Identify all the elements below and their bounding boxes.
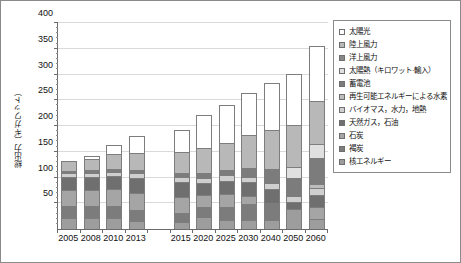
y-tick-minor — [56, 68, 58, 69]
legend-item[interactable]: バイオマス，水力，地熱 — [339, 103, 446, 116]
bar-segment — [286, 167, 302, 178]
bar-2020[interactable] — [196, 115, 212, 229]
bar-segment — [309, 219, 325, 229]
bar-segment — [286, 74, 302, 126]
legend-item[interactable]: 洋上風力 — [339, 51, 446, 64]
y-tick-minor — [56, 79, 58, 80]
bar-segment — [309, 46, 325, 102]
y-tick-minor — [56, 146, 58, 147]
y-tick-label: 100 — [38, 163, 53, 173]
bar-segment — [196, 207, 212, 217]
bar-segment — [309, 144, 325, 158]
y-tick-minor — [56, 207, 58, 208]
legend-label: 石炭 — [349, 131, 363, 140]
y-tick-minor — [56, 120, 58, 121]
legend-item[interactable]: 蓄電池 — [339, 77, 446, 90]
x-tick-label: 2010 — [103, 233, 123, 243]
y-tick-minor — [56, 223, 58, 224]
bar-2025[interactable] — [219, 105, 235, 229]
bar-segment — [241, 182, 257, 195]
bar-segment — [61, 190, 77, 206]
legend-swatch-icon — [339, 94, 345, 100]
y-tick-mark — [54, 74, 58, 75]
legend-item[interactable]: 再生可能エネルギーによる水素 — [339, 90, 446, 103]
y-tick-minor — [56, 43, 58, 44]
x-tick-mark — [327, 229, 328, 233]
y-tick-minor — [56, 104, 58, 105]
y-tick-minor — [56, 156, 58, 157]
bar-segment — [174, 130, 190, 152]
y-tick-label: 350 — [38, 34, 53, 44]
x-tick-mark — [147, 229, 148, 233]
bar-2030[interactable] — [241, 93, 257, 229]
y-tick-mark — [54, 202, 58, 203]
legend-item[interactable]: 太陽熱（キロワット·輸入） — [339, 64, 446, 77]
bar-segment — [286, 202, 302, 209]
y-tick-minor — [56, 115, 58, 116]
bar-segment — [241, 196, 257, 204]
legend-label: 天然ガス，石油 — [349, 118, 398, 127]
y-tick-minor — [56, 32, 58, 33]
bar-segment — [196, 183, 212, 195]
legend-item[interactable]: 核エネルギー — [339, 155, 446, 168]
legend-item[interactable]: 陸上風力 — [339, 38, 446, 51]
legend-item[interactable]: 褐炭 — [339, 142, 446, 155]
y-tick-minor — [56, 94, 58, 95]
bar-segment — [174, 152, 190, 173]
bar-segment — [264, 83, 280, 129]
gridline — [58, 48, 328, 49]
y-tick-minor — [56, 110, 58, 111]
bar-2040[interactable] — [264, 76, 280, 229]
x-tick-label: 2005 — [58, 233, 78, 243]
x-tick-label: 2008 — [81, 233, 101, 243]
legend-swatch-icon — [339, 120, 345, 126]
y-tick-label: 200 — [38, 111, 53, 121]
legend-label: 太陽光 — [349, 27, 370, 36]
legend-item[interactable]: 太陽光 — [339, 25, 446, 38]
legend-label: 蓄電池 — [349, 79, 370, 88]
bar-segment — [241, 168, 257, 176]
legend-item[interactable]: 天然ガス，石油 — [339, 116, 446, 129]
y-tick-mark — [54, 151, 58, 152]
legend-swatch-icon — [339, 133, 345, 139]
bar-segment — [264, 189, 280, 203]
bar-2013[interactable] — [129, 136, 145, 229]
y-tick-label: 400 — [38, 8, 53, 18]
bar-2015[interactable] — [174, 130, 190, 229]
bar-segment — [174, 222, 190, 229]
y-tick-minor — [56, 187, 58, 188]
bar-segment — [241, 204, 257, 220]
bar-segment — [219, 143, 235, 170]
bar-2050[interactable] — [286, 59, 302, 229]
legend-label: 太陽熱（キロワット·輸入） — [349, 66, 436, 75]
x-tick-label: 2013 — [126, 233, 146, 243]
x-tick-label: 2015 — [171, 233, 191, 243]
legend-swatch-icon — [339, 107, 345, 113]
legend-label: 洋上風力 — [349, 53, 377, 62]
bar-2005[interactable] — [61, 161, 77, 229]
bar-segment — [264, 169, 280, 183]
bar-segment — [264, 220, 280, 229]
legend-swatch-icon — [339, 159, 345, 165]
bar-2010[interactable] — [106, 142, 122, 229]
y-tick-minor — [56, 218, 58, 219]
bar-segment — [106, 206, 122, 218]
bar-segment — [84, 190, 100, 206]
y-tick-minor — [56, 84, 58, 85]
y-axis-title: 総出力（ギガワット） — [10, 43, 28, 213]
bar-segment — [219, 220, 235, 229]
bar-segment — [129, 193, 145, 209]
legend-label: バイオマス，水力，地熱 — [349, 105, 426, 114]
x-tick-label: 2020 — [193, 233, 213, 243]
bar-segment — [309, 207, 325, 218]
bar-segment — [196, 115, 212, 148]
bar-segment — [309, 195, 325, 208]
bar-segment — [129, 136, 145, 152]
bar-segment — [106, 189, 122, 205]
legend-item[interactable]: 石炭 — [339, 129, 446, 142]
bar-2060[interactable] — [309, 38, 325, 229]
bar-segment — [84, 159, 100, 170]
x-tick-label: 2060 — [306, 233, 326, 243]
bar-2008[interactable] — [84, 153, 100, 229]
bar-segment — [286, 125, 302, 167]
